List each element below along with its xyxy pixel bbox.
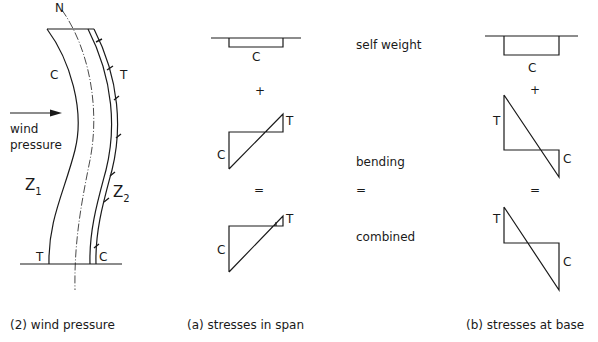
caption-stresses-in-span: (a) stresses in span xyxy=(187,318,304,332)
caption-wind-pressure: (2) wind pressure xyxy=(10,318,115,332)
base-combined-diagram xyxy=(504,207,559,290)
span-bending-c: C xyxy=(217,148,225,162)
neutral-axis xyxy=(62,10,94,290)
column-right-outer-face xyxy=(94,29,118,264)
zone-1-label: Z1 xyxy=(25,178,42,194)
base-self-weight-block xyxy=(504,36,559,55)
base-bending-diagram xyxy=(504,95,559,177)
row-label-combined: combined xyxy=(356,230,415,244)
row-label-bending: bending xyxy=(356,155,405,169)
base-tension-label: T xyxy=(36,250,43,264)
wind-label-line1: wind xyxy=(10,122,38,136)
column-tension-label: T xyxy=(120,68,127,82)
neutral-axis-label: N xyxy=(55,1,64,15)
wind-arrow-head xyxy=(50,110,62,117)
base-self-weight-c: C xyxy=(528,61,536,75)
row-label-self-weight: self weight xyxy=(356,38,421,52)
wind-label-line2: pressure xyxy=(10,138,62,152)
base-combined-t: T xyxy=(493,212,500,226)
span-bending-t: T xyxy=(286,114,293,128)
span-combined-c: C xyxy=(217,243,225,257)
base-plus-sign: + xyxy=(530,83,540,97)
base-bending-c: C xyxy=(563,152,571,166)
column-compression-label: C xyxy=(50,68,58,82)
zone-2-label: Z2 xyxy=(113,185,130,201)
span-self-weight-block xyxy=(229,38,283,47)
base-bending-t: T xyxy=(493,114,500,128)
base-compression-label: C xyxy=(99,250,107,264)
span-self-weight-c: C xyxy=(252,50,260,64)
diagram-canvas xyxy=(0,0,598,342)
base-equals-sign: = xyxy=(530,183,540,197)
caption-stresses-at-base: (b) stresses at base xyxy=(466,318,584,332)
base-combined-c: C xyxy=(563,255,571,269)
span-combined-diagram xyxy=(229,216,283,272)
span-equals-sign: = xyxy=(254,183,264,197)
span-bending-diagram xyxy=(229,114,283,169)
row-label-equals: = xyxy=(356,183,366,197)
span-plus-sign: + xyxy=(255,84,265,98)
span-combined-t: T xyxy=(286,212,293,226)
